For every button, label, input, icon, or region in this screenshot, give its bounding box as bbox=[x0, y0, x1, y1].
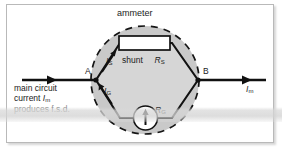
terminal-label-a: A bbox=[85, 66, 91, 76]
galvanometer-current-label-group: IG bbox=[104, 86, 111, 97]
main-current-subscript-right: m bbox=[248, 88, 253, 94]
caption-line-1: main circuit bbox=[14, 83, 70, 93]
main-current-caption: main circuit current Im produces f.s.d. bbox=[14, 83, 70, 114]
ammeter-title-label: ammeter bbox=[117, 8, 153, 19]
caption-line-2: current Im bbox=[14, 93, 70, 104]
ammeter-circuit-diagram bbox=[0, 0, 282, 153]
shunt-resistance-subscript: S bbox=[161, 59, 165, 65]
galvanometer-resistance-subscript: G bbox=[161, 109, 166, 115]
caption-current-subscript: m bbox=[45, 97, 50, 103]
shunt-current-subscript: S bbox=[108, 60, 112, 66]
shunt-current-label-group: IS bbox=[106, 56, 112, 67]
galvanometer-resistance-label-group: RG bbox=[155, 105, 166, 116]
caption-line-3: produces f.s.d. bbox=[14, 104, 70, 114]
shunt-label-group: shunt RS bbox=[122, 55, 165, 66]
terminal-label-b: B bbox=[203, 66, 209, 76]
galvanometer-current-subscript: G bbox=[106, 90, 111, 96]
figure-root: ammeter shunt RS RG IS IG A B Im main ci… bbox=[0, 0, 282, 153]
caption-current-word: current bbox=[14, 93, 43, 103]
main-current-label-right-group: Im bbox=[246, 84, 253, 95]
shunt-word-label: shunt bbox=[122, 55, 143, 65]
shunt-resistor-box bbox=[119, 36, 170, 50]
